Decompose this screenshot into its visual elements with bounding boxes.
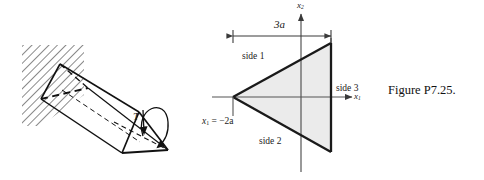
dimension-line-3a — [233, 30, 331, 43]
dimension-label-3a: 3a — [274, 19, 285, 30]
figure-p7-25: T x2 x1 3a side 1 side 2 side 3 x1 = −2a… — [0, 0, 484, 180]
side-3-label: side 3 — [336, 84, 358, 94]
x2-axis-subscript: 2 — [301, 4, 304, 10]
torque-arrow — [141, 108, 168, 147]
side-1-label: side 1 — [242, 52, 264, 62]
cross-section-group — [212, 14, 352, 172]
x1-axis-subscript: 1 — [358, 95, 361, 101]
apex-coordinate-value: −2a — [219, 116, 233, 126]
apex-coordinate-label: x1 = −2a — [202, 117, 234, 127]
prism-body — [41, 64, 168, 153]
prism-drawing-group — [22, 45, 168, 153]
figure-caption: Figure P7.25. — [388, 84, 456, 97]
side-2-label: side 2 — [259, 137, 281, 147]
x2-axis-label: x2 — [297, 1, 304, 11]
torque-label: T — [133, 111, 139, 122]
